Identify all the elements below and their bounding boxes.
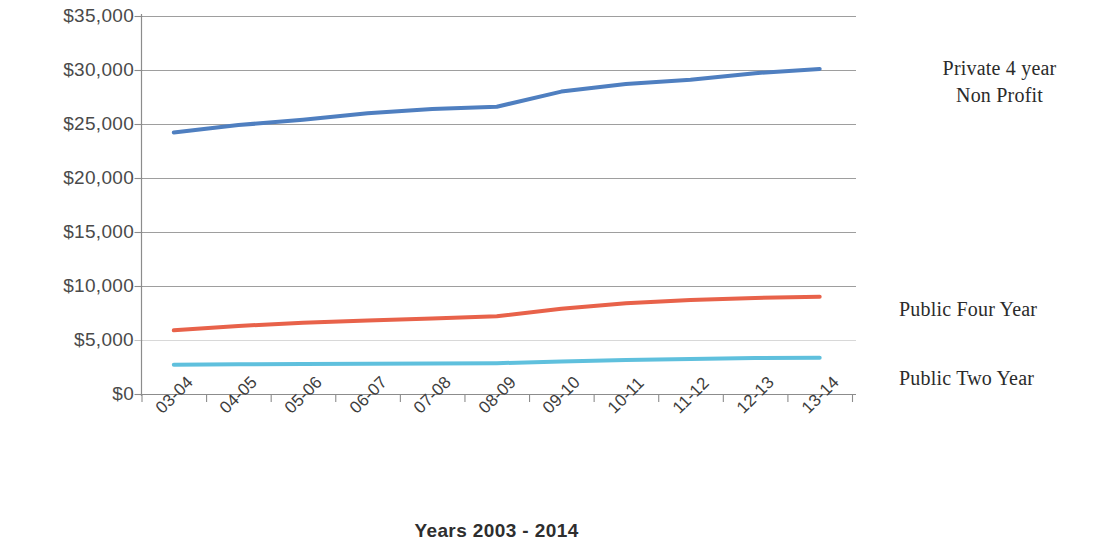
series-label-private-line-2: Non Profit bbox=[901, 82, 1098, 109]
line-chart: $0$5,000$10,000$15,000$20,000$25,000$30,… bbox=[0, 0, 1098, 558]
series-label-public-four-year: Public Four Year bbox=[899, 298, 1037, 321]
series-line-public-two-year bbox=[174, 358, 820, 365]
x-axis-labels: 03-0404-0505-0606-0707-0808-0909-1010-11… bbox=[0, 404, 900, 504]
series-label-public-two-year: Public Two Year bbox=[899, 367, 1034, 390]
series-line-private-4-year-non-profit bbox=[174, 69, 820, 133]
series-label-private-4-year-non-profit: Private 4 year Non Profit bbox=[901, 55, 1098, 109]
series-lines bbox=[174, 69, 820, 365]
series-label-private-line-1: Private 4 year bbox=[901, 55, 1098, 82]
series-line-public-four-year bbox=[174, 297, 820, 331]
x-axis-title: Years 2003 - 2014 bbox=[141, 520, 852, 542]
